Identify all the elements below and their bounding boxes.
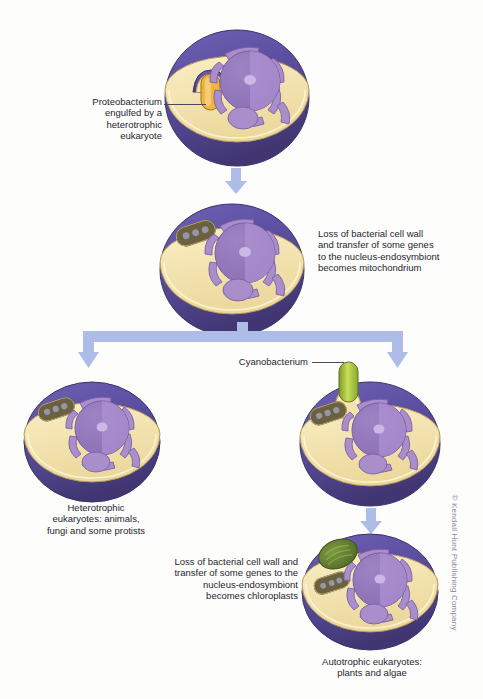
label-autotrophic-eukaryotes: Autotrophic eukaryotes: plants and algae (292, 656, 452, 679)
label-loss-cell-wall-mitochondrium: Loss of bacterial cell wall and transfer… (318, 228, 478, 274)
cell-engulfing-cyanobacterium (288, 368, 453, 508)
cell-heterotrophic-eukaryote-final (14, 374, 174, 504)
leader-line-cyanobacterium (312, 362, 344, 363)
arrow-step1-to-step2 (223, 168, 249, 194)
organelle-nucleus (215, 223, 275, 283)
organelle-nucleus (353, 553, 407, 607)
copyright-notice: © Kendall Hunt Publishing Company (450, 495, 459, 645)
label-cyanobacterium: Cyanobacterium (200, 356, 308, 367)
organelle-nucleus (75, 401, 129, 455)
label-proteobacterium-engulfed: Proteobacterium engulfed by a heterotrop… (40, 96, 162, 142)
label-loss-cell-wall-chloroplasts: Loss of bacterial cell wall and transfer… (146, 556, 298, 602)
organelle-cyanobacterium (339, 362, 358, 402)
organelle-nucleus (352, 403, 406, 457)
cell-autotrophic-eukaryote (292, 528, 452, 653)
leader-line-proteobacterium (164, 104, 206, 105)
cell-heterotrophic-eukaryote-engulfing (155, 18, 320, 173)
cell-with-mitochondrion (150, 192, 315, 342)
diagram-canvas: Proteobacterium engulfed by a heterotrop… (0, 0, 483, 699)
label-heterotrophic-eukaryotes: Heterotrophic eukaryotes: animals, fungi… (16, 502, 176, 536)
organelle-nucleus (220, 51, 280, 111)
